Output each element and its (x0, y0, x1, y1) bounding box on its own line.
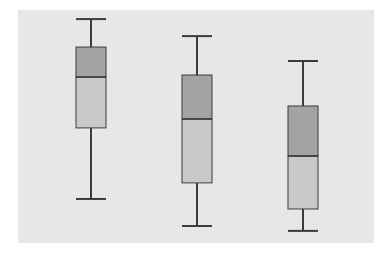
upper-box-q3-median (288, 106, 318, 156)
upper-box-q3-median (182, 75, 212, 119)
lower-box-median-q1 (288, 156, 318, 209)
box-plot-chart (0, 0, 391, 253)
lower-box-median-q1 (182, 119, 212, 183)
lower-box-median-q1 (76, 77, 106, 128)
upper-box-q3-median (76, 47, 106, 77)
